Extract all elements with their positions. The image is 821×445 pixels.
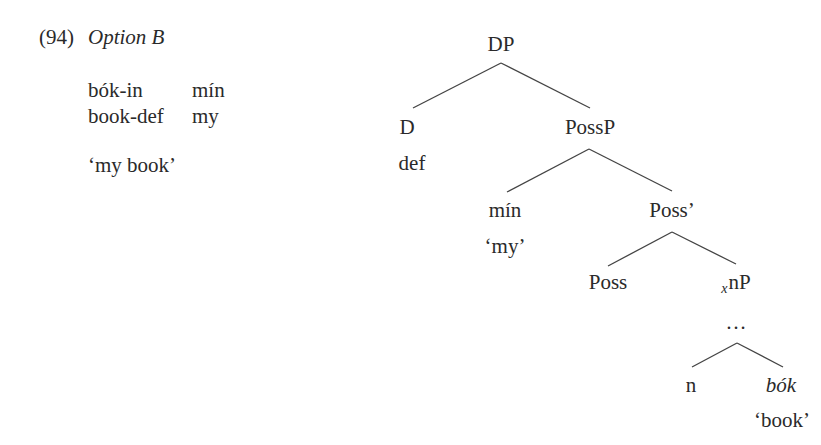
node-spec: mín: [489, 200, 522, 221]
node-d: D: [399, 117, 414, 138]
branch-possbar-poss: [608, 232, 672, 266]
branch-lower-n: [692, 343, 737, 367]
node-ellipsis: …: [726, 312, 747, 333]
branch-lower-root: [737, 343, 783, 367]
branch-dp-possp: [501, 63, 590, 108]
branch-dp-d: [413, 63, 501, 108]
branch-possbar-xnp: [672, 232, 736, 264]
branch-possp-possbar: [589, 149, 672, 191]
node-root-gloss: ‘book’: [754, 410, 810, 431]
tree-branches: [0, 0, 821, 445]
xnp-label: nP: [729, 270, 751, 294]
node-n: n: [686, 375, 697, 396]
node-d-word: def: [399, 153, 426, 174]
node-xnp: xnP: [721, 272, 750, 293]
node-dp: DP: [488, 34, 515, 55]
node-possp: PossP: [565, 117, 615, 138]
node-poss-bar: Poss’: [649, 200, 695, 221]
xnp-subscript: x: [721, 281, 727, 296]
branch-possp-spec: [507, 149, 589, 192]
node-root-word: bók: [766, 375, 796, 396]
node-spec-gloss: ‘my’: [485, 236, 526, 257]
node-poss-head: Poss: [589, 272, 628, 293]
